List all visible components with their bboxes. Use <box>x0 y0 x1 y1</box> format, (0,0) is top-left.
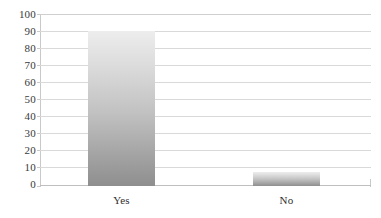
y-tick-label-60: 60 <box>2 77 36 88</box>
y-axis-tick-labels: 100 90 80 70 60 50 40 30 20 10 0 <box>0 0 36 218</box>
y-tick-label-0: 0 <box>2 179 36 190</box>
bar-yes <box>88 31 155 186</box>
y-tick-label-90: 90 <box>2 26 36 37</box>
y-tick-label-30: 30 <box>2 128 36 139</box>
plot-area <box>40 14 371 186</box>
gridline-100 <box>40 14 371 15</box>
x-category-label-yes: Yes <box>88 194 155 206</box>
y-tick-label-40: 40 <box>2 111 36 122</box>
y-tick-label-50: 50 <box>2 94 36 105</box>
bar-no <box>253 172 320 186</box>
y-tick-label-10: 10 <box>2 162 36 173</box>
y-tick-label-100: 100 <box>2 9 36 20</box>
bar-chart: 100 90 80 70 60 50 40 30 20 10 0 <box>0 0 381 218</box>
x-category-label-no: No <box>253 194 320 206</box>
y-tick-mark-0 <box>37 186 41 187</box>
y-tick-label-80: 80 <box>2 43 36 54</box>
y-tick-label-70: 70 <box>2 60 36 71</box>
y-tick-label-20: 20 <box>2 145 36 156</box>
